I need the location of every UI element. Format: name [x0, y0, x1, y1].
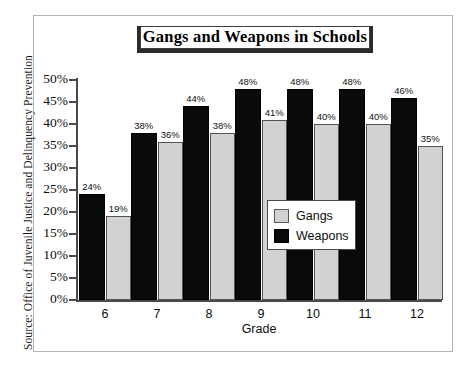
y-axis-tick [69, 233, 76, 235]
y-axis-tick-label: 15% [22, 225, 68, 241]
bar-weapons [391, 98, 417, 300]
y-axis-tick-labels: 0%5%10%15%20%25%30%35%40%45%50% [22, 78, 68, 302]
plot-area: 0%5%10%15%20%25%30%35%40%45%50% 24%19%38… [76, 78, 442, 302]
y-axis-tick-label: 35% [22, 137, 68, 153]
bar-value-label-weapons: 44% [179, 93, 213, 104]
y-axis-tick [69, 255, 76, 257]
y-axis-tick-label: 20% [22, 203, 68, 219]
legend-swatch-gangs [274, 209, 289, 223]
bar-weapons [183, 106, 209, 300]
bar-value-label-gangs: 19% [102, 203, 136, 214]
y-axis-tick-label: 10% [22, 247, 68, 263]
y-axis-tick-label: 25% [22, 181, 68, 197]
bar-gangs [106, 216, 132, 300]
bar-gangs [210, 133, 236, 300]
x-axis-tick-label: 12 [383, 307, 451, 321]
bar-value-label-weapons: 48% [231, 76, 265, 87]
y-axis-tick [69, 167, 76, 169]
chart-title: Gangs and Weapons in Schools [137, 26, 373, 53]
bar-gangs [418, 146, 444, 300]
legend-label-weapons: Weapons [296, 229, 349, 243]
legend-item-gangs: Gangs [274, 206, 355, 225]
y-axis-tick-label: 0% [22, 291, 68, 307]
bar-value-label-weapons: 48% [283, 76, 317, 87]
bar-value-label-weapons: 46% [387, 85, 421, 96]
bar-value-label-gangs: 36% [154, 129, 188, 140]
legend-swatch-weapons [274, 229, 289, 243]
chart-title-box: Gangs and Weapons in Schools [140, 26, 370, 49]
y-axis-tick [69, 145, 76, 147]
y-axis-tick [69, 101, 76, 103]
y-axis-tick-label: 5% [22, 269, 68, 285]
bar-gangs [366, 124, 392, 300]
bar-weapons [131, 133, 157, 300]
bar-value-label-weapons: 24% [75, 181, 109, 192]
bar-value-label-weapons: 48% [335, 76, 369, 87]
legend-item-weapons: Weapons [274, 226, 355, 245]
legend-label-gangs: Gangs [296, 209, 333, 223]
x-axis-title: Grade [76, 322, 442, 336]
bar-gangs [158, 142, 184, 300]
y-axis-tick [69, 123, 76, 125]
bar-value-label-gangs: 38% [206, 120, 240, 131]
y-axis-tick-label: 40% [22, 115, 68, 131]
chart-title-text: Gangs and Weapons in Schools [143, 27, 367, 48]
bar-weapons [235, 89, 261, 300]
y-axis-tick-label: 50% [22, 71, 68, 87]
bar-value-label-gangs: 40% [362, 111, 396, 122]
y-axis-tick [69, 299, 76, 301]
chart-legend: Gangs Weapons [267, 200, 356, 250]
y-axis-tick [69, 79, 76, 81]
y-axis-tick [69, 211, 76, 213]
y-axis-tick-label: 45% [22, 93, 68, 109]
y-axis-tick-label: 30% [22, 159, 68, 175]
bar-value-label-gangs: 35% [414, 133, 448, 144]
bar-value-label-gangs: 41% [258, 107, 292, 118]
y-axis-tick [69, 277, 76, 279]
bar-value-label-gangs: 40% [310, 111, 344, 122]
x-axis-line [76, 300, 442, 302]
